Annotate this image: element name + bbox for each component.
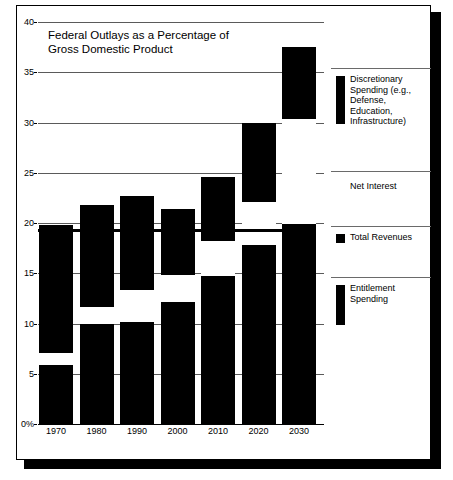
y-tick-label-35: 35 [24, 68, 34, 77]
y-tick-dash-35 [34, 72, 37, 73]
legend-swatch-0 [336, 76, 345, 124]
y-tick-label-5: 5 [29, 369, 34, 378]
legend-swatch-3 [336, 285, 345, 325]
x-tick-label-2030: 2030 [282, 426, 316, 436]
segment-net-interest-1980 [80, 306, 114, 324]
x-tick-label-2000: 2000 [161, 426, 195, 436]
bar-1970[interactable] [39, 225, 73, 424]
legend-divider-3 [331, 277, 431, 278]
y-tick-dash-10 [34, 324, 37, 325]
legend-divider-2 [331, 226, 431, 227]
frame-shadow-right [430, 12, 441, 469]
legend-label-1[interactable]: Net Interest [350, 181, 397, 192]
y-tick-label-0: 0% [21, 420, 34, 429]
segment-net-interest-2000 [161, 274, 195, 303]
x-tick-label-1990: 1990 [120, 426, 154, 436]
chart-page: Federal Outlays as a Percentage of Gross… [0, 0, 453, 480]
bar-2030[interactable] [282, 47, 316, 424]
y-tick-label-10: 10 [24, 319, 34, 328]
legend-divider-0 [331, 68, 431, 69]
segment-net-interest-2010 [201, 240, 235, 277]
segment-net-interest-2030 [282, 118, 316, 225]
bar-2000[interactable] [161, 209, 195, 424]
plot-area: 0%510152025303540 1970198019902000201020… [38, 22, 324, 424]
x-tick-label-2020: 2020 [242, 426, 276, 436]
bar-2020[interactable] [242, 123, 276, 425]
legend-label-2[interactable]: Total Revenues [350, 232, 412, 243]
total-revenues-line [38, 229, 316, 232]
legend-label-3[interactable]: Entitlement Spending [350, 283, 395, 304]
legend-swatch-2 [336, 234, 345, 243]
y-tick-label-15: 15 [24, 269, 34, 278]
y-tick-dash-0 [34, 424, 37, 425]
segment-net-interest-1990 [120, 289, 154, 323]
y-tick-dash-40 [34, 22, 37, 23]
y-tick-dash-15 [34, 273, 37, 274]
gridline-40: 40 [38, 22, 324, 23]
segment-net-interest-1970 [39, 352, 73, 366]
segment-net-interest-2020 [242, 201, 276, 246]
y-tick-label-40: 40 [24, 18, 34, 27]
y-tick-label-25: 25 [24, 168, 34, 177]
y-tick-dash-30 [34, 123, 37, 124]
legend-label-0[interactable]: Discretionary Spending (e.g., Defense, E… [350, 74, 411, 127]
x-tick-label-1980: 1980 [80, 426, 114, 436]
y-tick-label-20: 20 [24, 219, 34, 228]
bar-1980[interactable] [80, 205, 114, 424]
x-tick-label-2010: 2010 [201, 426, 235, 436]
x-tick-label-1970: 1970 [39, 426, 73, 436]
y-tick-dash-5 [34, 374, 37, 375]
y-tick-dash-20 [34, 223, 37, 224]
gridline-0: 0% [38, 424, 324, 425]
legend-divider-1 [331, 171, 431, 172]
y-tick-label-30: 30 [24, 118, 34, 127]
y-tick-dash-25 [34, 173, 37, 174]
bar-2010[interactable] [201, 177, 235, 424]
